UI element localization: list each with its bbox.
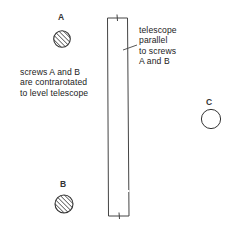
leader-line: [123, 45, 137, 50]
telescope-note: telescope parallel to screws A and B: [139, 25, 177, 66]
telescope-tube: [108, 15, 130, 220]
screw-b: [55, 195, 73, 213]
screw-b-label: B: [60, 180, 66, 189]
telescope-note-line: telescope: [139, 25, 177, 35]
screw-c-label: C: [206, 98, 212, 107]
levelling-diagram: [0, 0, 231, 226]
screw-a-label: A: [58, 13, 64, 22]
screw-a: [54, 31, 71, 48]
screws-note-line: to level telescope: [20, 88, 88, 98]
telescope-note-line: parallel: [139, 35, 177, 45]
screw-c: [201, 109, 220, 128]
screws-note-line: are contrarotated: [20, 77, 88, 87]
screws-note: screws A and B are contrarotated to leve…: [20, 67, 88, 98]
telescope-note-line: A and B: [139, 56, 177, 66]
telescope-note-line: to screws: [139, 46, 177, 56]
screws-note-line: screws A and B: [20, 67, 88, 77]
